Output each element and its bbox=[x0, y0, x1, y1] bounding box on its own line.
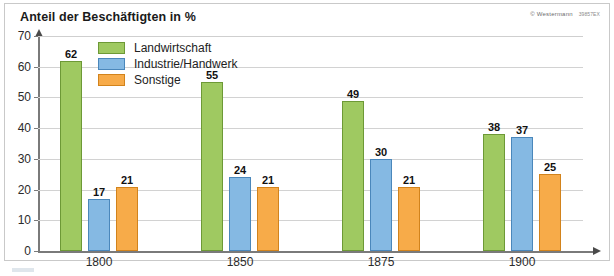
x-tick-label-1850: 1850 bbox=[227, 255, 254, 269]
y-tick-label: 10 bbox=[18, 213, 31, 227]
bar-1850-industrie-handwerk[interactable]: 24 bbox=[229, 177, 251, 251]
y-tick-mark bbox=[34, 251, 38, 252]
y-tick-label: 50 bbox=[18, 90, 31, 104]
bar-value-label: 24 bbox=[234, 164, 246, 176]
publisher-label: © Westermann bbox=[530, 11, 572, 17]
y-tick-mark bbox=[34, 159, 38, 160]
legend-swatch-icon bbox=[98, 58, 125, 70]
y-tick-mark bbox=[34, 220, 38, 221]
legend-label: Landwirtschaft bbox=[134, 41, 211, 55]
legend-label: Sonstige bbox=[134, 73, 181, 87]
legend-item-sonstige[interactable]: Sonstige bbox=[98, 72, 237, 87]
y-tick-label: 30 bbox=[18, 152, 31, 166]
bar-1900-sonstige[interactable]: 25 bbox=[539, 174, 561, 251]
bar-value-label: 49 bbox=[347, 88, 359, 100]
bar-1875-landwirtschaft[interactable]: 49 bbox=[342, 101, 364, 252]
bar-1800-industrie-handwerk[interactable]: 17 bbox=[88, 199, 110, 251]
y-tick-mark bbox=[34, 190, 38, 191]
bar-value-label: 21 bbox=[403, 174, 415, 186]
x-tick-label-1800: 1800 bbox=[86, 255, 113, 269]
y-tick-label: 60 bbox=[18, 60, 31, 74]
bar-value-label: 38 bbox=[488, 121, 500, 133]
bar-value-label: 37 bbox=[516, 124, 528, 136]
legend-label: Industrie/Handwerk bbox=[134, 57, 237, 71]
bar-value-label: 21 bbox=[121, 174, 133, 186]
bar-1850-landwirtschaft[interactable]: 55 bbox=[201, 82, 223, 251]
y-tick-label: 0 bbox=[24, 244, 31, 258]
y-tick-mark bbox=[34, 97, 38, 98]
y-tick-mark bbox=[34, 128, 38, 129]
y-tick-label: 40 bbox=[18, 121, 31, 135]
bar-1900-landwirtschaft[interactable]: 38 bbox=[483, 134, 505, 251]
bar-1900-industrie-handwerk[interactable]: 37 bbox=[511, 137, 533, 251]
y-tick-mark bbox=[34, 36, 38, 37]
page-title: Anteil der Beschäftigten in % bbox=[20, 10, 196, 24]
y-tick-mark bbox=[34, 67, 38, 68]
bar-1875-sonstige[interactable]: 21 bbox=[398, 187, 420, 252]
legend-swatch-icon bbox=[98, 42, 125, 54]
x-tick-label-1900: 1900 bbox=[509, 255, 536, 269]
copyright-credit: © Westermann39857EX bbox=[530, 11, 600, 17]
chart-figure: Anteil der Beschäftigten in % © Westerma… bbox=[0, 0, 614, 276]
bar-1800-sonstige[interactable]: 21 bbox=[116, 187, 138, 252]
figure-code: 39857EX bbox=[579, 11, 600, 17]
bar-1800-landwirtschaft[interactable]: 62 bbox=[60, 61, 82, 251]
bar-value-label: 17 bbox=[93, 186, 105, 198]
bar-value-label: 30 bbox=[375, 146, 387, 158]
corner-mark bbox=[12, 268, 34, 272]
bar-group-1900: 383725 bbox=[483, 36, 561, 252]
legend-item-industrie-handwerk[interactable]: Industrie/Handwerk bbox=[98, 56, 237, 71]
x-tick-label-1875: 1875 bbox=[368, 255, 395, 269]
bar-1850-sonstige[interactable]: 21 bbox=[257, 187, 279, 252]
bar-value-label: 62 bbox=[65, 48, 77, 60]
bar-value-label: 25 bbox=[544, 161, 556, 173]
chart-legend: LandwirtschaftIndustrie/HandwerkSonstige bbox=[98, 40, 237, 88]
y-tick-label: 20 bbox=[18, 183, 31, 197]
legend-swatch-icon bbox=[98, 74, 125, 86]
bar-1875-industrie-handwerk[interactable]: 30 bbox=[370, 159, 392, 251]
y-tick-label: 70 bbox=[18, 29, 31, 43]
x-axis-arrow-icon bbox=[593, 247, 601, 255]
legend-item-landwirtschaft[interactable]: Landwirtschaft bbox=[98, 40, 237, 55]
bar-value-label: 21 bbox=[262, 174, 274, 186]
bar-group-1875: 493021 bbox=[342, 36, 420, 252]
